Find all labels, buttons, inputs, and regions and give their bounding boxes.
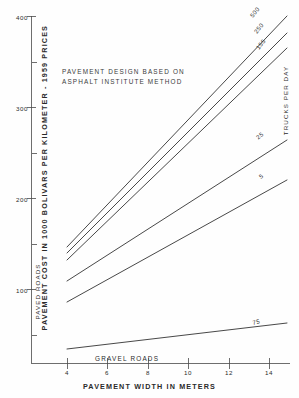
series-line-5 bbox=[67, 180, 287, 302]
series-line-25 bbox=[67, 140, 287, 281]
series-line-75-gravel bbox=[67, 323, 287, 349]
series-line-250 bbox=[67, 33, 287, 253]
series-line-155 bbox=[67, 48, 287, 260]
chart-figure: PAVEMENT COST IN 1000 BOLIVARS PER KILOM… bbox=[0, 0, 299, 398]
chart-canvas bbox=[0, 0, 299, 398]
series-line-500 bbox=[67, 16, 287, 247]
